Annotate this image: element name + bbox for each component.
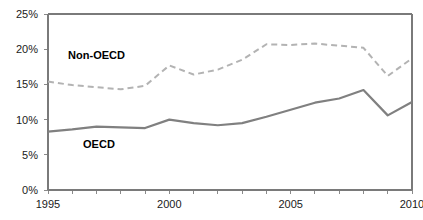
- y-axis-tick-label: 5%: [22, 149, 38, 161]
- y-axis-tick-label: 20%: [16, 43, 38, 55]
- y-axis-tick-label: 10%: [16, 114, 38, 126]
- series-annotation-oecd: OECD: [83, 138, 115, 150]
- y-axis-tick-label: 25%: [16, 8, 38, 20]
- x-axis-tick-label: 2010: [400, 198, 423, 210]
- series-annotation-non-oecd: Non-OECD: [68, 49, 125, 61]
- x-axis-tick-label: 1995: [36, 198, 60, 210]
- x-axis-tick-label: 2005: [278, 198, 302, 210]
- chart-background: [0, 0, 423, 220]
- y-axis-tick-label: 0%: [22, 184, 38, 196]
- chart-container: 0%5%10%15%20%25% 1995200020052010 Non-OE…: [0, 0, 423, 220]
- line-chart: 0%5%10%15%20%25% 1995200020052010 Non-OE…: [0, 0, 423, 220]
- y-axis-tick-label: 15%: [16, 78, 38, 90]
- x-axis-tick-label: 2000: [157, 198, 181, 210]
